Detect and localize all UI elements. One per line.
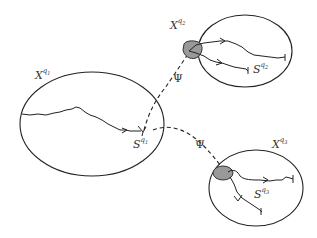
label-psi-q1-q3: Ψ xyxy=(195,139,205,150)
label-S-q1: Sq1 xyxy=(133,138,148,150)
region-q1-ellipse xyxy=(20,72,164,176)
hybrid-system-diagram: Xq1 Sq1 Xq2 Sq2 Xq3 Sq3 Ψ Ψ xyxy=(0,0,317,238)
region-q2-ellipse xyxy=(198,15,292,87)
transition-q1-q2 xyxy=(144,54,188,130)
label-psi-q1-q2: Ψ xyxy=(173,73,183,84)
reset-region-q2 xyxy=(183,41,202,59)
arrow-head-q3-down xyxy=(234,195,242,201)
trajectory-q3-bridge xyxy=(286,177,293,179)
diagram-graphics xyxy=(0,0,317,238)
trajectory-q3-right xyxy=(228,170,286,181)
label-S-q3: Sq3 xyxy=(254,188,269,200)
label-S-q2: Sq2 xyxy=(253,63,268,75)
label-X-q3: Xq3 xyxy=(272,138,288,150)
label-X-q2: Xq2 xyxy=(170,19,186,31)
label-X-q1: Xq1 xyxy=(35,69,51,81)
trajectory-q1 xyxy=(22,107,141,131)
trajectory-q2-lower xyxy=(189,51,248,71)
